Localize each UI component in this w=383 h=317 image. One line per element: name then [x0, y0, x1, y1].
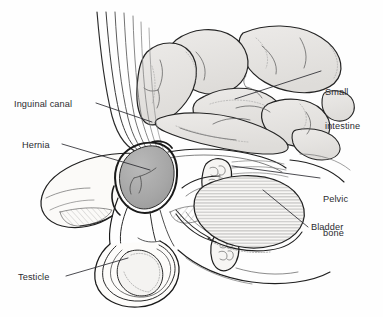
hernia-diagram-figure: Inguinal canal Hernia Testicle Small int…	[0, 0, 383, 317]
label-pelvic-bone: Pelvic bone	[323, 172, 348, 262]
label-small-intestine-line2: intestine	[325, 121, 360, 132]
hernia-sac-group	[112, 141, 177, 215]
label-pelvic-bone-line1: Pelvic	[323, 194, 348, 205]
label-small-intestine-line1: Small	[325, 87, 360, 98]
label-bladder: Bladder	[311, 222, 343, 233]
label-small-intestine: Small intestine	[325, 65, 360, 155]
label-testicle: Testicle	[18, 272, 49, 283]
testicle-group	[95, 238, 179, 307]
small-intestine-group	[137, 26, 354, 160]
anatomy-illustration	[0, 0, 383, 317]
label-inguinal-canal: Inguinal canal	[14, 99, 72, 110]
label-hernia: Hernia	[22, 140, 50, 151]
